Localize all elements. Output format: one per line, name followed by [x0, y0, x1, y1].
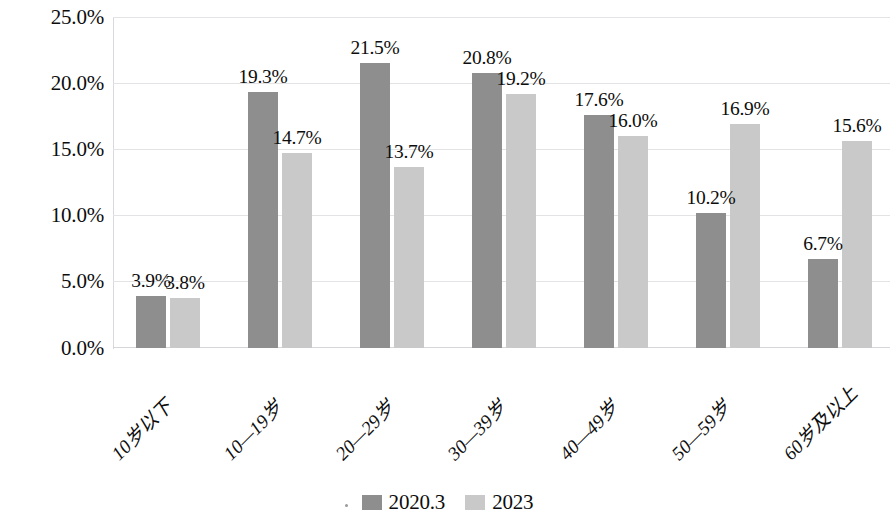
y-tick-label: 10.0% — [4, 205, 104, 226]
bar — [472, 73, 502, 348]
x-axis-category-label: 60岁及以上 — [780, 383, 861, 464]
bar-value-label: 19.3% — [224, 67, 302, 87]
bar-value-label: 3.8% — [146, 273, 224, 293]
bar — [808, 259, 838, 348]
bar — [136, 296, 166, 348]
bar-value-label: 16.0% — [594, 111, 672, 131]
bar — [584, 115, 614, 348]
bar-value-label: 20.8% — [448, 48, 526, 68]
bar-value-label: 10.2% — [672, 188, 750, 208]
x-axis-category-label: 50—59岁 — [668, 398, 734, 464]
bar-value-label: 6.7% — [784, 234, 862, 254]
legend-label: 2020.3 — [389, 492, 446, 513]
bar-value-label: 15.6% — [818, 116, 895, 136]
bar-value-label: 21.5% — [336, 38, 414, 58]
bar — [730, 124, 760, 348]
bar-value-label: 13.7% — [370, 142, 448, 162]
y-tick-label: 5.0% — [4, 271, 104, 292]
bar — [696, 213, 726, 348]
x-axis-category-label: 20—29岁 — [332, 398, 398, 464]
legend-label: 2023 — [492, 492, 533, 513]
bar — [506, 94, 536, 348]
bar-value-label: 14.7% — [258, 128, 336, 148]
x-axis-category-label: 10岁以下 — [108, 396, 176, 464]
bar-chart: 25.0% 20.0% 15.0% 10.0% 5.0% 0.0% 3.9%3.… — [0, 0, 895, 518]
y-tick-label: 15.0% — [4, 139, 104, 160]
bar — [618, 136, 648, 348]
bar — [282, 153, 312, 348]
legend-item-2023[interactable]: 2023 — [465, 492, 533, 513]
y-tick-label: 25.0% — [4, 7, 104, 28]
bar — [170, 298, 200, 348]
y-axis-tick-labels: 25.0% 20.0% 15.0% 10.0% 5.0% 0.0% — [0, 0, 104, 518]
bar-value-label: 19.2% — [482, 69, 560, 89]
legend-swatch-icon — [465, 495, 485, 510]
legend-item-2020[interactable]: 2020.3 — [362, 492, 446, 513]
legend-swatch-icon — [362, 495, 382, 510]
x-axis-category-label: 30—39岁 — [444, 398, 510, 464]
y-tick-label: 20.0% — [4, 73, 104, 94]
plot-area: 3.9%3.8%19.3%14.7%21.5%13.7%20.8%19.2%17… — [113, 17, 890, 348]
bar — [360, 63, 390, 348]
x-axis-category-label: 10—19岁 — [220, 398, 286, 464]
gridline — [113, 17, 890, 18]
bar — [394, 167, 424, 348]
bar-value-label: 16.9% — [706, 99, 784, 119]
bar-value-label: 17.6% — [560, 90, 638, 110]
y-tick-label: 0.0% — [4, 338, 104, 359]
x-axis-category-label: 40—49岁 — [556, 398, 622, 464]
legend: 2020.3 2023 — [0, 487, 895, 518]
